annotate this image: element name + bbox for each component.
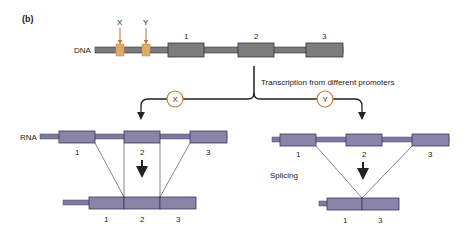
left-pre-exon-2 xyxy=(124,131,160,143)
left-mature-mrna: 1 2 3 xyxy=(63,197,196,224)
left-pre-exon-3 xyxy=(190,131,227,143)
promoter-x xyxy=(116,44,124,56)
splice-line xyxy=(160,143,190,197)
rna-label: RNA xyxy=(20,133,38,142)
right-pre-exon-1-label: 1 xyxy=(296,150,301,159)
left-pre-mrna: RNA 1 2 3 xyxy=(20,131,227,197)
right-pre-exon-3 xyxy=(412,134,449,146)
promoter-y-label: Y xyxy=(143,18,149,27)
dna-exon-3-label: 3 xyxy=(322,32,327,41)
transcription-label: Transcription from different promoters xyxy=(261,78,394,87)
left-mature-exon-3-label: 3 xyxy=(176,215,181,224)
branch-right-arrow-icon xyxy=(254,93,362,116)
right-mature-exon-1-label: 1 xyxy=(343,216,348,225)
promoter-y xyxy=(142,44,150,56)
dna-label: DNA xyxy=(74,46,92,55)
left-mature-exon-2-label: 2 xyxy=(140,215,145,224)
right-pre-exon-2-label: 2 xyxy=(362,150,367,159)
panel-label: (b) xyxy=(22,14,34,24)
right-mature-exon-1 xyxy=(327,198,362,210)
left-mature-exon-3 xyxy=(160,197,196,209)
dna-exon-1-label: 1 xyxy=(184,32,189,41)
left-pre-exon-1-label: 1 xyxy=(75,148,80,157)
splice-line xyxy=(316,146,362,198)
splicing-label: Splicing xyxy=(270,171,298,180)
left-pre-exon-3-label: 3 xyxy=(206,148,211,157)
branch-left-label: X xyxy=(173,95,179,104)
branch-right-label: Y xyxy=(323,95,329,104)
dna-exon-2-label: 2 xyxy=(254,32,259,41)
left-pre-exon-1 xyxy=(59,131,95,143)
transcription-branches: Transcription from different promoters X… xyxy=(141,66,394,116)
left-mature-exon-1-label: 1 xyxy=(104,215,109,224)
splice-line xyxy=(362,146,412,198)
right-pre-exon-1 xyxy=(280,134,316,146)
right-mature-exon-3 xyxy=(362,198,399,210)
right-mature-mrna: 1 3 xyxy=(319,198,399,225)
right-pre-mrna: 1 2 3 Splicing xyxy=(270,134,449,198)
right-pre-exon-3-label: 3 xyxy=(428,150,433,159)
dna-exon-3 xyxy=(306,43,343,57)
promoter-x-label: X xyxy=(117,18,123,27)
branch-left-arrow-icon xyxy=(141,93,254,116)
right-pre-exon-2 xyxy=(346,134,382,146)
left-mature-exon-1 xyxy=(89,197,124,209)
dna-exon-1 xyxy=(168,43,204,57)
splice-line xyxy=(95,143,124,197)
left-mature-tail xyxy=(63,200,90,205)
dna-strand: DNA X Y 1 2 3 xyxy=(74,18,343,57)
alternative-promoter-diagram: (b) DNA X Y 1 2 3 Transcription from dif… xyxy=(0,0,469,232)
dna-exon-2 xyxy=(238,43,274,57)
left-pre-exon-2-label: 2 xyxy=(140,148,145,157)
left-mature-exon-2 xyxy=(124,197,160,209)
right-mature-exon-3-label: 3 xyxy=(378,216,383,225)
